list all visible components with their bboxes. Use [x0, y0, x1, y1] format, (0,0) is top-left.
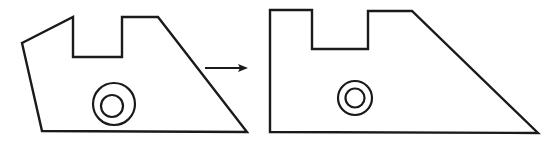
- left-part-outline: [22, 17, 247, 132]
- shape-transformation-figure: [0, 0, 551, 144]
- transformation-arrow: [205, 64, 248, 72]
- left-part-group: [22, 17, 247, 132]
- figure-container: [0, 0, 551, 144]
- right-part-outline: [270, 10, 538, 133]
- right-part-group: [270, 10, 538, 133]
